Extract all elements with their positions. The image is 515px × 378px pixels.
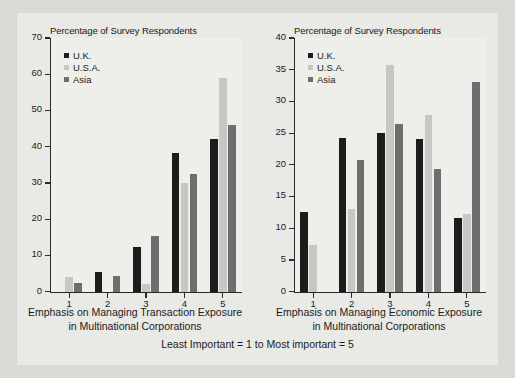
bar-uk-1 bbox=[300, 212, 308, 291]
bar-asia-2 bbox=[357, 160, 365, 292]
legend-swatch-asia-icon bbox=[308, 77, 313, 82]
legend-swatch-uk-icon bbox=[64, 53, 69, 58]
legend-item-asia: Asia bbox=[64, 73, 100, 85]
legend-swatch-asia-icon bbox=[64, 77, 69, 82]
x-axis-label-right-line2: in Multinational Corporations bbox=[261, 319, 497, 333]
y-axis-tick: 30 bbox=[289, 101, 294, 102]
bar-asia-2 bbox=[113, 276, 121, 292]
y-axis-tick-label: 0 bbox=[281, 285, 286, 296]
y-axis-tick: 70 bbox=[45, 37, 50, 38]
legend-item-uk: U.K. bbox=[64, 49, 100, 61]
y-axis-line-right bbox=[294, 38, 295, 293]
bar-asia-5 bbox=[472, 82, 480, 291]
y-axis-tick: 5 bbox=[289, 259, 294, 260]
bar-uk-2 bbox=[339, 138, 347, 292]
legend-swatch-usa-icon bbox=[64, 65, 69, 70]
legend-label-usa: U.S.A. bbox=[73, 62, 100, 73]
chart-panel-transaction-exposure: Percentage of Survey Respondents 0102030… bbox=[17, 13, 253, 365]
bar-usa-2 bbox=[348, 209, 356, 291]
bar-usa-4 bbox=[181, 183, 189, 292]
bar-usa-4 bbox=[425, 115, 433, 291]
y-axis-tick-label: 15 bbox=[275, 189, 286, 200]
y-axis-tick-label: 40 bbox=[275, 31, 286, 42]
y-axis-tick-label: 20 bbox=[275, 158, 286, 169]
legend-item-uk: U.K. bbox=[308, 49, 344, 61]
legend-left: U.K. U.S.A. Asia bbox=[64, 49, 100, 85]
y-axis-tick-label: 10 bbox=[31, 248, 42, 259]
legend-label-uk: U.K. bbox=[73, 50, 91, 61]
y-axis-tick: 10 bbox=[289, 228, 294, 229]
y-axis-tick: 30 bbox=[45, 182, 50, 183]
y-axis-tick-label: 10 bbox=[275, 221, 286, 232]
y-axis-tick: 20 bbox=[45, 219, 50, 220]
bar-asia-1 bbox=[74, 283, 82, 292]
y-axis-tick: 20 bbox=[289, 164, 294, 165]
bar-usa-1 bbox=[65, 277, 73, 291]
y-axis-tick-label: 25 bbox=[275, 126, 286, 137]
bar-uk-5 bbox=[210, 139, 218, 292]
legend-label-uk: U.K. bbox=[317, 50, 335, 61]
y-axis-tick: 60 bbox=[45, 74, 50, 75]
figure-caption: Least Important = 1 to Most important = … bbox=[17, 338, 498, 350]
x-axis-label-left-line2: in Multinational Corporations bbox=[17, 319, 253, 333]
x-axis-label-right-line1: Emphasis on Managing Economic Exposure bbox=[261, 305, 497, 319]
bar-uk-4 bbox=[172, 153, 180, 291]
bar-uk-3 bbox=[377, 133, 385, 292]
bar-uk-4 bbox=[416, 139, 424, 291]
y-axis-tick: 0 bbox=[289, 291, 294, 292]
figure-container: Percentage of Survey Respondents 0102030… bbox=[17, 13, 498, 365]
chart-title-right: Percentage of Survey Respondents bbox=[294, 25, 441, 36]
bar-usa-3 bbox=[142, 284, 150, 291]
y-axis-tick: 40 bbox=[45, 146, 50, 147]
y-axis-tick: 0 bbox=[45, 291, 50, 292]
y-axis-tick: 35 bbox=[289, 69, 294, 70]
bar-usa-5 bbox=[219, 78, 227, 292]
bar-usa-1 bbox=[309, 245, 317, 291]
y-axis-tick-label: 70 bbox=[31, 31, 42, 42]
bar-usa-3 bbox=[386, 65, 394, 292]
y-axis-tick-label: 40 bbox=[31, 140, 42, 151]
y-axis-tick-label: 60 bbox=[31, 67, 42, 78]
bar-asia-3 bbox=[151, 236, 159, 292]
chart-title-left: Percentage of Survey Respondents bbox=[50, 25, 197, 36]
legend-item-usa: U.S.A. bbox=[64, 61, 100, 73]
legend-label-asia: Asia bbox=[73, 74, 91, 85]
y-axis-tick: 50 bbox=[45, 110, 50, 111]
bar-asia-4 bbox=[434, 169, 442, 291]
legend-label-asia: Asia bbox=[317, 74, 335, 85]
legend-swatch-usa-icon bbox=[308, 65, 313, 70]
y-axis-tick-label: 30 bbox=[275, 94, 286, 105]
bar-asia-3 bbox=[395, 124, 403, 292]
y-axis-tick-label: 50 bbox=[31, 103, 42, 114]
x-axis-label-left-line1: Emphasis on Managing Transaction Exposur… bbox=[17, 305, 253, 319]
y-axis-tick-label: 35 bbox=[275, 63, 286, 74]
bar-uk-3 bbox=[133, 247, 141, 292]
legend-right: U.K. U.S.A. Asia bbox=[308, 49, 344, 85]
y-axis-line-left bbox=[50, 38, 51, 293]
bar-uk-5 bbox=[454, 218, 462, 292]
bar-usa-5 bbox=[463, 214, 471, 291]
y-axis-tick: 25 bbox=[289, 133, 294, 134]
y-axis-tick-label: 0 bbox=[37, 285, 42, 296]
y-axis-tick: 40 bbox=[289, 37, 294, 38]
y-axis-tick: 15 bbox=[289, 196, 294, 197]
legend-item-usa: U.S.A. bbox=[308, 61, 344, 73]
bar-asia-5 bbox=[228, 125, 236, 292]
y-axis-tick-label: 5 bbox=[281, 253, 286, 264]
y-axis-tick-label: 30 bbox=[31, 176, 42, 187]
y-axis-tick-label: 20 bbox=[31, 212, 42, 223]
bar-asia-4 bbox=[190, 174, 198, 292]
y-axis-tick: 10 bbox=[45, 255, 50, 256]
legend-swatch-uk-icon bbox=[308, 53, 313, 58]
chart-panel-economic-exposure: Percentage of Survey Respondents 0510152… bbox=[261, 13, 497, 365]
bar-uk-2 bbox=[95, 272, 103, 292]
legend-item-asia: Asia bbox=[308, 73, 344, 85]
legend-label-usa: U.S.A. bbox=[317, 62, 344, 73]
